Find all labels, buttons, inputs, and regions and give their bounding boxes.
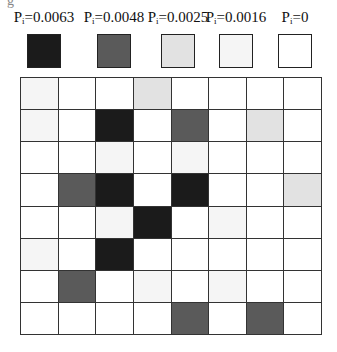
grid-cell: [133, 141, 172, 174]
grid-cell: [171, 238, 210, 271]
grid-cell: [208, 109, 247, 142]
grid-cell: [246, 302, 285, 335]
grid-cell: [58, 238, 97, 271]
grid-cell: [246, 141, 285, 174]
grid-cell: [283, 173, 322, 206]
grid-cell: [208, 270, 247, 303]
grid-cell: [171, 77, 210, 110]
grid-cell: [20, 77, 59, 110]
grid-cell: [283, 109, 322, 142]
grid-cell: [171, 173, 210, 206]
grid-cell: [133, 77, 172, 110]
legend-label-value: =0.0016: [217, 9, 267, 25]
grid-cell: [171, 109, 210, 142]
legend-label-value: =0: [292, 9, 308, 25]
grid-cell: [283, 206, 322, 239]
grid-cell: [283, 141, 322, 174]
grid-cell: [171, 302, 210, 335]
grid-cell: [283, 238, 322, 271]
grid-cell: [58, 270, 97, 303]
grid-cell: [208, 77, 247, 110]
grid-cell: [95, 141, 134, 174]
grid-cell: [208, 238, 247, 271]
legend-swatch: [97, 34, 131, 68]
grid-cell: [95, 206, 134, 239]
grid-cell: [171, 141, 210, 174]
grid-cell: [20, 270, 59, 303]
grid-cell: [20, 141, 59, 174]
legend-label: Pi=0.0063: [9, 8, 79, 30]
grid-cell: [208, 206, 247, 239]
legend-swatch: [161, 34, 195, 68]
grid-cell: [133, 206, 172, 239]
grid-cell: [20, 173, 59, 206]
legend-label-value: =0.0048: [95, 9, 145, 25]
grid-cell: [283, 270, 322, 303]
grid-cell: [58, 206, 97, 239]
probability-grid: [20, 77, 321, 334]
grid-cell: [20, 109, 59, 142]
grid-cell: [58, 173, 97, 206]
legend-swatch: [278, 34, 312, 68]
legend-label-symbol: P: [206, 9, 214, 25]
grid-cell: [133, 109, 172, 142]
grid-cell: [133, 302, 172, 335]
legend-swatch: [27, 34, 61, 68]
legend-label-symbol: P: [282, 9, 290, 25]
grid-cell: [95, 302, 134, 335]
grid-cell: [171, 206, 210, 239]
grid-cell: [208, 141, 247, 174]
grid-cell: [20, 302, 59, 335]
legend-label: Pi=0.0048: [79, 8, 149, 30]
grid-cell: [58, 109, 97, 142]
grid-cell: [95, 270, 134, 303]
legend-label-symbol: P: [14, 9, 22, 25]
legend-label: Pi=0: [260, 8, 330, 30]
grid-cell: [283, 302, 322, 335]
legend-label-value: =0.0063: [25, 9, 75, 25]
grid-cell: [246, 173, 285, 206]
grid-cell: [58, 141, 97, 174]
grid-cell: [246, 77, 285, 110]
grid-cell: [133, 270, 172, 303]
grid-cell: [246, 238, 285, 271]
grid-cell: [95, 238, 134, 271]
grid-cell: [20, 206, 59, 239]
grid-cell: [58, 77, 97, 110]
grid-cell: [171, 270, 210, 303]
grid-cell: [133, 238, 172, 271]
legend-swatch: [219, 34, 253, 68]
grid-cell: [246, 109, 285, 142]
grid-cell: [283, 77, 322, 110]
grid-cell: [95, 77, 134, 110]
legend-label-symbol: P: [84, 9, 92, 25]
grid-cell: [95, 173, 134, 206]
grid-cell: [246, 270, 285, 303]
legend-label-symbol: P: [148, 9, 156, 25]
grid-cell: [58, 302, 97, 335]
grid-cell: [208, 173, 247, 206]
grid-cell: [208, 302, 247, 335]
grid-cell: [20, 238, 59, 271]
grid-cell: [246, 206, 285, 239]
grid-cell: [95, 109, 134, 142]
grid-cell: [133, 173, 172, 206]
